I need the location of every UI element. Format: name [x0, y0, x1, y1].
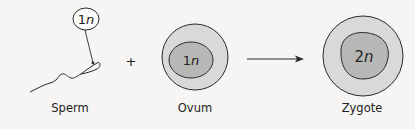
ovum-label: Ovum	[178, 101, 212, 115]
zygote-ploidy-label: 2n	[354, 48, 373, 66]
ovum-group: 1n Ovum	[162, 24, 228, 115]
sperm-ploidy-label: 1n	[78, 12, 95, 27]
fertilization-diagram: 1n Sperm + 1n Ovum 2n Zygote	[0, 0, 415, 129]
sperm-head	[81, 63, 100, 74]
plus-operator: +	[126, 54, 137, 69]
sperm-tail	[30, 74, 81, 92]
sperm-group: 1n Sperm	[30, 8, 100, 115]
sperm-leader-line	[85, 30, 93, 63]
ovum-ploidy-label: 1n	[183, 53, 200, 68]
fertilization-arrow	[247, 56, 304, 63]
sperm-leader-dot	[92, 62, 95, 65]
zygote-label: Zygote	[342, 101, 383, 115]
zygote-group: 2n Zygote	[323, 16, 403, 115]
sperm-label: Sperm	[51, 101, 88, 115]
